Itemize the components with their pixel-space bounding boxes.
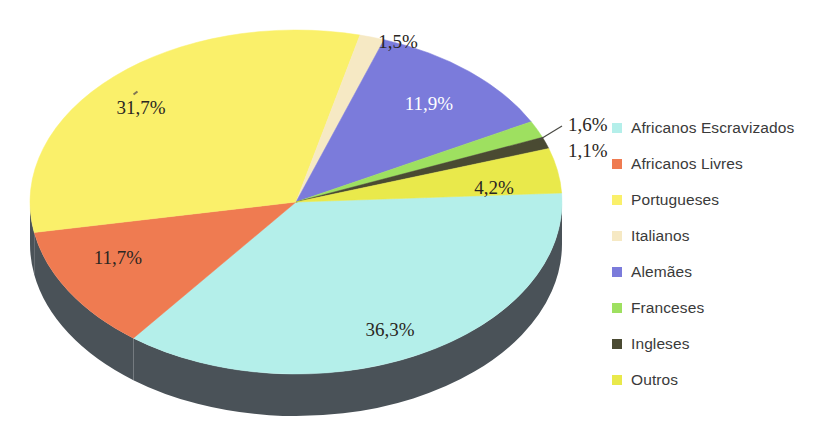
legend-item-label: Africanos Livres <box>631 155 743 173</box>
legend-color-swatch <box>612 159 622 169</box>
pie-leader-lines <box>539 126 562 140</box>
legend-color-swatch <box>612 123 622 133</box>
legend-color-swatch <box>612 195 622 205</box>
pie-slices <box>30 30 562 374</box>
leader-line-franceses <box>539 126 562 140</box>
legend-item-label: Alemães <box>631 263 692 281</box>
legend-item[interactable]: Africanos Livres <box>612 146 832 182</box>
legend-color-swatch <box>612 375 622 385</box>
slice-percent-label-africanos-livres: 11,7% <box>94 247 143 268</box>
legend-item-label: Franceses <box>631 299 704 317</box>
legend-item[interactable]: Alemães <box>612 254 832 290</box>
legend-color-swatch <box>612 231 622 241</box>
legend-item-label: Outros <box>631 371 678 389</box>
slice-percent-label-africanos-escravizados: 36,3% <box>365 319 414 340</box>
chart-legend: Africanos EscravizadosAfricanos LivresPo… <box>612 110 832 398</box>
legend-item-label: Portugueses <box>631 191 719 209</box>
slice-percent-label-italianos: 1,5% <box>378 31 418 52</box>
legend-item-label: Ingleses <box>631 335 690 353</box>
legend-item-label: Africanos Escravizados <box>631 119 794 137</box>
legend-color-swatch <box>612 339 622 349</box>
slice-percent-label-alemães: 11,9% <box>405 93 454 114</box>
slice-percent-label-outros: 4,2% <box>474 177 514 198</box>
slice-percent-label-portugueses: 31,7% <box>116 97 165 118</box>
legend-item[interactable]: Portugueses <box>612 182 832 218</box>
slice-percent-label-franceses: 1,6% <box>568 114 608 135</box>
legend-item[interactable]: Africanos Escravizados <box>612 110 832 146</box>
legend-item[interactable]: Italianos <box>612 218 832 254</box>
legend-color-swatch <box>612 267 622 277</box>
slice-percent-label-ingleses: 1,1% <box>568 140 608 161</box>
legend-item[interactable]: Franceses <box>612 290 832 326</box>
legend-item[interactable]: Outros <box>612 362 832 398</box>
legend-color-swatch <box>612 303 622 313</box>
pie-chart-page: 36,3%11,7%31,7%1,5%11,9%1,6%1,1%4,2% Afr… <box>0 0 839 446</box>
legend-item[interactable]: Ingleses <box>612 326 832 362</box>
legend-item-label: Italianos <box>631 227 690 245</box>
